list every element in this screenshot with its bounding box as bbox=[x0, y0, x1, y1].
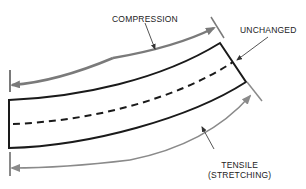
compression-arrow bbox=[10, 17, 224, 92]
beam bbox=[9, 43, 246, 148]
unchanged-leader bbox=[237, 37, 268, 60]
compression-leader bbox=[145, 23, 155, 49]
tensile-label-line1: TENSILE bbox=[208, 160, 271, 170]
unchanged-label: UNCHANGED bbox=[240, 25, 297, 35]
neutral-axis bbox=[13, 62, 233, 124]
compression-label: COMPRESSION bbox=[112, 14, 178, 24]
tensile-label: TENSILE (STRETCHING) bbox=[208, 160, 271, 180]
tensile-label-line2: (STRETCHING) bbox=[208, 170, 271, 180]
